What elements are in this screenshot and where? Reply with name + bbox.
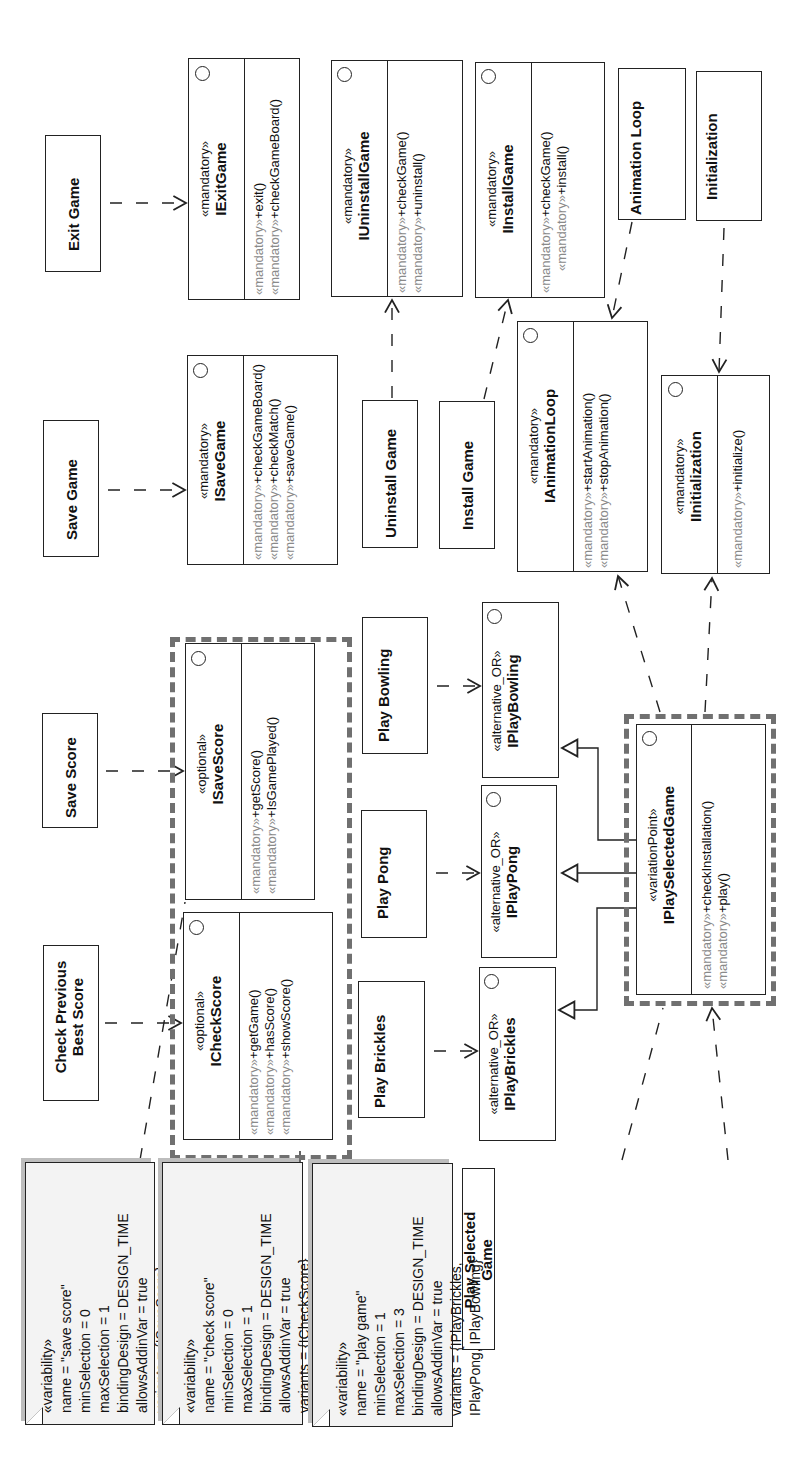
- stereotype: «optional»: [192, 921, 207, 1121]
- interface-circle-icon: [642, 731, 657, 746]
- operation: «mandatory»+getScore(): [248, 717, 264, 894]
- operation: «mandatory»+showScore(): [278, 979, 294, 1135]
- interface-iplaybowling[interactable]: «alternative_OR» IPlayBowling: [482, 602, 559, 778]
- interface-icheckscore[interactable]: «optional» ICheckScore «mandatory»+getGa…: [183, 912, 333, 1140]
- feature-play-pong[interactable]: Play Pong: [361, 810, 427, 938]
- feature-install-game[interactable]: Install Game: [439, 401, 495, 549]
- feature-label: Uninstall Game: [382, 429, 399, 538]
- operation: «mandatory»+checkInstallation(): [699, 801, 715, 989]
- feature-play-brickles[interactable]: Play Brickles: [358, 981, 425, 1118]
- dep-animation: [612, 222, 632, 318]
- operation: «mandatory»+install(): [554, 131, 570, 293]
- interface-iplayselectedgame[interactable]: «variationPoint» IPlaySelectedGame «mand…: [636, 724, 766, 995]
- interface-circle-icon: [486, 792, 501, 807]
- variability-note-check-score: «variability»name = "check score"minSele…: [162, 1162, 303, 1425]
- feature-label: Animation Loop: [627, 101, 644, 215]
- feature-label: Exit Game: [65, 178, 82, 251]
- operation: «mandatory»+initialize(): [730, 430, 746, 568]
- interface-name: IPlayBowling: [504, 631, 521, 771]
- stereotype: «alternative_OR»: [488, 812, 503, 952]
- stereotype: «alternative_OR»: [489, 631, 504, 771]
- feature-label: Play Brickles: [371, 1015, 388, 1108]
- interface-isavegame[interactable]: «mandatory» ISaveGame «mandatory»+checkG…: [187, 355, 338, 565]
- operation: «mandatory»+checkGame(): [394, 131, 410, 293]
- feature-save-score[interactable]: Save Score: [42, 713, 98, 828]
- interface-circle-icon: [195, 66, 210, 81]
- operation: «mandatory»+saveGame(): [282, 364, 298, 560]
- feature-play-bowling[interactable]: Play Bowling: [362, 617, 428, 754]
- feature-save-game[interactable]: Save Game: [43, 420, 99, 557]
- feature-exit-game[interactable]: Exit Game: [45, 135, 101, 272]
- interface-iinstallgame[interactable]: «mandatory» IInstallGame «mandatory»+che…: [475, 62, 605, 298]
- interface-iuninstallgame[interactable]: «mandatory» IUninstallGame «mandatory»+c…: [331, 60, 463, 297]
- dep-play-selected: [712, 1008, 728, 1160]
- feature-check-previous-best-score[interactable]: Check Previous Best Score: [43, 945, 99, 1101]
- stereotype: «mandatory»: [340, 91, 355, 281]
- interface-isavescore[interactable]: «optional» ISaveScore «mandatory»+getSco…: [185, 643, 315, 900]
- interface-iexitgame[interactable]: «mandatory» IExitGame «mandatory»+exit()…: [188, 58, 300, 300]
- feature-uninstall-game[interactable]: Uninstall Game: [362, 400, 418, 548]
- interface-circle-icon: [523, 328, 538, 343]
- operation: «mandatory»+getGame(): [246, 979, 262, 1135]
- dep-init: [719, 228, 724, 372]
- stereotype: «mandatory»: [672, 389, 687, 564]
- feature-label: Play Bowling: [375, 649, 392, 742]
- stereotype: «mandatory»: [196, 376, 211, 546]
- operation: «mandatory»+startAnimation(): [580, 393, 596, 568]
- operation: «mandatory»+stopAnimation(): [596, 393, 612, 568]
- stereotype: «mandatory»: [484, 99, 499, 279]
- operation: «mandatory»+checkGame(): [538, 131, 554, 293]
- interface-iinitialization[interactable]: «mandatory» IInitialization «mandatory»+…: [661, 375, 770, 574]
- feature-label: Initialization: [703, 113, 720, 200]
- interface-ianimationloop[interactable]: «mandatory» IAnimationLoop «mandatory»+s…: [517, 321, 648, 572]
- interface-name: IPlaySelectedGame: [660, 745, 677, 965]
- operation: «mandatory»+hasScore(): [262, 979, 278, 1135]
- operation: «mandatory»+checkMatch(): [266, 364, 282, 560]
- interface-circle-icon: [337, 67, 352, 82]
- interface-name: ISaveScore: [209, 664, 226, 864]
- interface-circle-icon: [484, 974, 499, 989]
- operation: «mandatory»+exit(): [251, 99, 267, 295]
- feature-label: Install Game: [459, 441, 476, 530]
- stereotype: «mandatory»: [197, 89, 212, 269]
- dep-install: [484, 300, 508, 399]
- stereotype: «mandatory»: [526, 346, 541, 546]
- stereotype: «alternative_OR»: [486, 994, 501, 1134]
- interface-name: IAnimationLoop: [541, 346, 558, 546]
- stereotype: «variationPoint»: [645, 745, 660, 965]
- interface-iplaybrickles[interactable]: «alternative_OR» IPlayBrickles: [479, 967, 556, 1141]
- dep-psg-anim: [618, 576, 660, 712]
- operation: «mandatory»+play(): [715, 801, 731, 989]
- interface-name: IInstallGame: [499, 99, 516, 279]
- variability-note-play-game: «variability»name = "play game"minSelect…: [312, 1163, 453, 1427]
- feature-label-line1: Check Previous: [52, 950, 69, 1084]
- feature-label-line2: Best Score: [69, 950, 86, 1084]
- interface-name: IUninstallGame: [355, 91, 372, 281]
- interface-iplaypong[interactable]: «alternative_OR» IPlayPong: [481, 785, 557, 958]
- feature-label: Save Game: [63, 459, 80, 540]
- operation: «mandatory»+uninstall(): [410, 131, 426, 293]
- feature-label: Save Score: [62, 737, 79, 818]
- operation: «mandatory»+checkGameBoard(): [267, 99, 283, 295]
- feature-initialization[interactable]: Initialization: [696, 71, 762, 221]
- interface-name: ICheckScore: [207, 921, 224, 1121]
- note-link-play: [622, 1008, 663, 1160]
- interface-circle-icon: [481, 69, 496, 84]
- feature-animation-loop[interactable]: Animation Loop: [618, 68, 686, 220]
- feature-label: Play Pong: [374, 846, 391, 919]
- dep-psg-init: [705, 578, 712, 712]
- interface-name: IInitialization: [687, 389, 704, 564]
- interface-circle-icon: [487, 609, 502, 624]
- variability-note-save-score: «variability»name = "save score"minSelec…: [25, 1162, 155, 1425]
- interface-name: IPlayBrickles: [501, 994, 518, 1134]
- interface-name: IExitGame: [212, 89, 229, 269]
- interface-name: IPlayPong: [503, 812, 520, 952]
- interface-name: ISaveGame: [211, 376, 228, 546]
- operation: «mandatory»+IsGamePlayed(): [264, 717, 280, 894]
- stereotype: «optional»: [194, 664, 209, 864]
- operation: «mandatory»+checkGameBoard(): [250, 364, 266, 560]
